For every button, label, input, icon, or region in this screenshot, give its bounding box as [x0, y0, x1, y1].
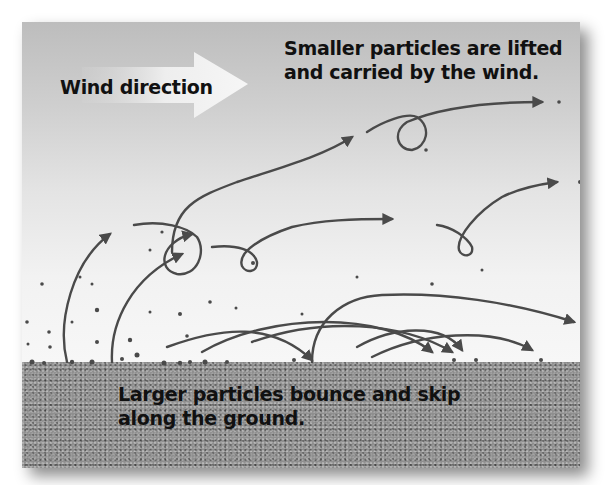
large-particles-caption: Larger particles bounce and skip along t… — [118, 382, 460, 430]
small-particles-line-1: Smaller particles are lifted — [284, 36, 562, 60]
suspension-trajectory-top — [367, 102, 542, 150]
small-particles-caption: Smaller particles are lifted and carried… — [284, 36, 562, 84]
suspension-trajectory-long — [172, 137, 352, 252]
saltation-trajectory-long-right — [312, 294, 574, 362]
suspension-trajectory-small-loop — [212, 219, 392, 271]
large-particles-line-2: along the ground. — [118, 406, 460, 430]
wind-direction-text: Wind direction — [60, 75, 213, 99]
large-particles-line-1: Larger particles bounce and skip — [118, 382, 460, 406]
suspension-trajectory-right — [437, 182, 557, 255]
particles — [25, 100, 580, 365]
suspension-trajectory-loop — [134, 223, 201, 274]
diagram-frame: Wind direction Smaller particles are lif… — [22, 22, 580, 468]
wind-direction-label: Wind direction — [60, 75, 213, 99]
small-particles-line-2: and carried by the wind. — [284, 60, 562, 84]
saltation-trajectory-left-rise — [64, 234, 110, 362]
saltation-trajectory-low-5 — [372, 335, 532, 357]
